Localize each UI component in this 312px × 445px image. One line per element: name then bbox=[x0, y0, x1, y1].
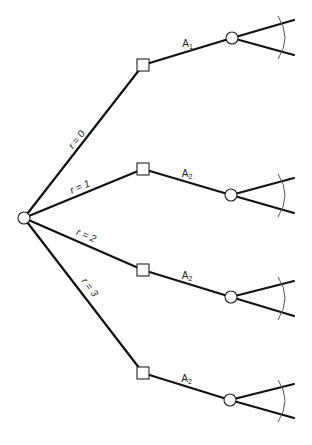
decision-node bbox=[137, 367, 149, 379]
action-label: A2 bbox=[181, 373, 192, 385]
chance-node bbox=[224, 394, 236, 406]
chance-node bbox=[225, 291, 237, 303]
chance-node bbox=[225, 189, 237, 201]
action-label: A2 bbox=[182, 270, 193, 282]
branch-edge-r2 bbox=[24, 218, 143, 270]
decision-node bbox=[137, 59, 149, 71]
chance-node bbox=[226, 32, 238, 44]
decision-node bbox=[137, 163, 149, 175]
action-label: A2 bbox=[182, 168, 193, 180]
root-node bbox=[18, 212, 30, 224]
decision-tree-diagram: r = 0A1r = 1A2r = 2A2r = 3A2 bbox=[0, 0, 312, 445]
decision-node bbox=[137, 264, 149, 276]
branch-edge-r0 bbox=[24, 65, 143, 218]
outcome-edge bbox=[230, 400, 294, 418]
branch-label: r = 1 bbox=[68, 178, 91, 196]
action-label: A1 bbox=[182, 38, 193, 50]
branch-edge-r3 bbox=[24, 218, 143, 373]
